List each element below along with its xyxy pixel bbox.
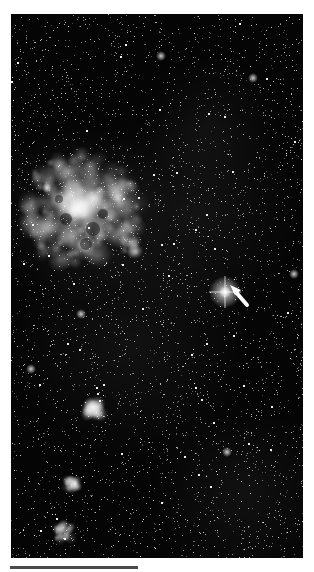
scale-bar — [10, 566, 138, 569]
star-field — [11, 14, 303, 558]
astronomical-photo — [11, 14, 303, 558]
